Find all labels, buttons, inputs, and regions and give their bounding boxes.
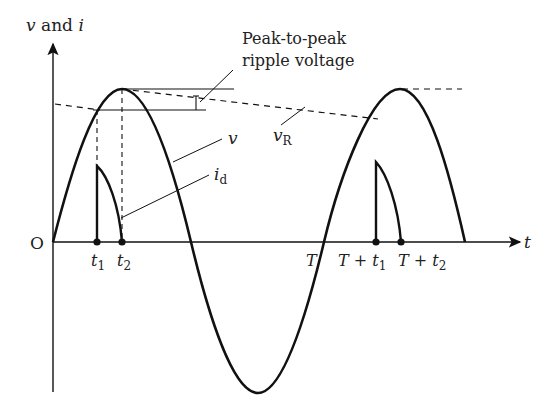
tick-T: T — [306, 251, 318, 270]
vR-leader — [281, 107, 305, 125]
t1-dot — [93, 238, 100, 245]
T-t2-dot — [397, 238, 404, 245]
vR-dashed-left — [55, 104, 100, 110]
ripple-leader — [200, 70, 233, 102]
vR-dashed-main — [122, 89, 378, 119]
diode-current-pulse-1 — [97, 166, 122, 242]
ripple-annotation-line1: Peak-to-peak — [242, 29, 347, 48]
tick-T-plus-t2: T + t2 — [398, 251, 446, 273]
t2-dot — [118, 238, 125, 245]
vR-label: vR — [273, 125, 293, 148]
x-axis-label: t — [524, 232, 531, 252]
id-leader — [121, 175, 209, 218]
tick-t2: t2 — [117, 251, 131, 273]
T-t1-dot — [372, 238, 379, 245]
id-label: id — [214, 164, 227, 187]
rectifier-waveform-diagram: v and i O t Peak-to-peak ripple voltage … — [0, 0, 552, 416]
v-leader — [173, 139, 222, 162]
origin-label: O — [30, 233, 44, 253]
tick-T-plus-t1: T + t1 — [338, 251, 386, 273]
v-label: v — [228, 128, 238, 148]
tick-t1: t1 — [91, 251, 105, 273]
diode-current-pulse-2 — [376, 162, 401, 242]
y-axis-label: v and i — [26, 15, 84, 35]
ripple-annotation-line2: ripple voltage — [242, 51, 354, 70]
